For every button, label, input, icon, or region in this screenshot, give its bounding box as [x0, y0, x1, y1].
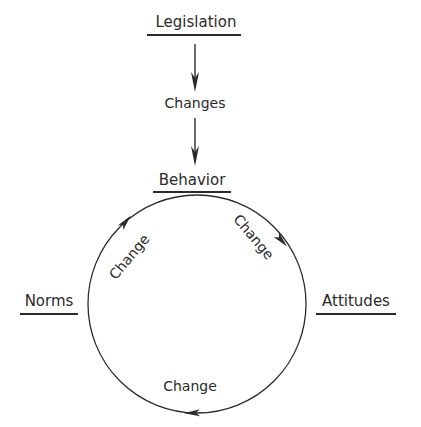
node-attitudes: Attitudes	[316, 292, 396, 314]
node-norms: Norms	[20, 292, 78, 314]
change-label-behavior-to-attitudes: Change	[230, 211, 277, 262]
change-label-norms-to-behavior: Change	[106, 231, 153, 282]
attitudes-label: Attitudes	[322, 292, 390, 310]
norms-label: Norms	[25, 292, 74, 310]
arrow-legislation-to-changes	[191, 44, 199, 92]
changes-label: Changes	[165, 95, 226, 111]
legislation-label: Legislation	[156, 13, 237, 31]
arrow-changes-to-behavior	[191, 118, 199, 166]
node-behavior: Behavior	[153, 171, 231, 192]
behavior-label: Behavior	[159, 171, 226, 189]
change-label-attitudes-to-norms: Change	[163, 378, 217, 394]
diagram-canvas: Legislation Changes Behavior Change Chan…	[0, 0, 421, 427]
node-legislation: Legislation	[147, 13, 241, 35]
